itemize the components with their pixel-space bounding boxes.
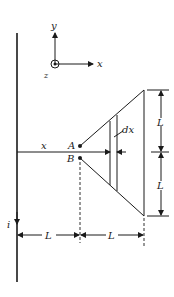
z-axis-label: z [43, 71, 49, 80]
point-b-label: B [66, 153, 74, 164]
current-label: i [7, 219, 10, 230]
distance-x-label: x [41, 140, 47, 151]
dim-right-upper-label: L [156, 117, 164, 128]
triangular-loop [80, 90, 144, 216]
point-a [78, 144, 82, 148]
z-dot-icon [54, 63, 57, 66]
point-a-label: A [67, 140, 75, 151]
dim-bottom-right-label: L [107, 230, 115, 241]
coordinate-axes: y x z [43, 20, 103, 80]
point-b [78, 156, 82, 160]
x-axis-label: x [97, 58, 103, 69]
y-axis-label: y [50, 20, 57, 31]
strip-width-label: dx [122, 124, 134, 135]
dim-bottom-left-label: L [44, 230, 52, 241]
right-dimensions [147, 90, 169, 216]
dim-right-lower-label: L [156, 180, 164, 191]
diagram-canvas: i y x z A B dx x L L [0, 0, 174, 297]
